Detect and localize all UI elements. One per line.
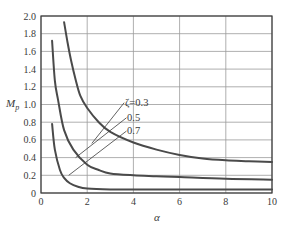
- curve-zeta-05: [52, 41, 272, 180]
- y-tick-label: 1.4: [24, 64, 37, 75]
- x-axis-ticks: 0246810: [39, 196, 278, 207]
- curves: [52, 22, 272, 189]
- x-tick-label: 10: [267, 196, 277, 207]
- curve-zeta-03: [64, 22, 272, 162]
- mp-vs-alpha-chart: 00.20.40.60.81.01.21.41.61.82.0 0246810 …: [0, 0, 284, 231]
- x-tick-label: 6: [177, 196, 182, 207]
- x-tick-label: 8: [223, 196, 228, 207]
- y-tick-label: 2.0: [24, 11, 37, 22]
- y-axis-ticks: 00.20.40.60.81.01.21.41.61.82.0: [24, 11, 37, 199]
- y-tick-label: 0: [31, 188, 36, 199]
- y-tick-label: 0.6: [24, 134, 37, 145]
- y-tick-label: 0.2: [24, 170, 37, 181]
- annotation-zeta-0-5: 0.5: [127, 112, 140, 123]
- annotation-zeta-0-3: ζ=0.3: [125, 97, 148, 109]
- y-tick-label: 1.2: [24, 81, 37, 92]
- x-tick-label: 0: [39, 196, 44, 207]
- grid-lines: [41, 16, 272, 193]
- x-tick-label: 2: [85, 196, 90, 207]
- y-tick-label: 0.4: [24, 152, 37, 163]
- y-tick-label: 1.8: [24, 28, 37, 39]
- x-tick-label: 4: [131, 196, 136, 207]
- y-tick-label: 1.6: [24, 46, 37, 57]
- y-tick-label: 1.0: [24, 99, 37, 110]
- x-axis-label: α: [154, 211, 160, 223]
- y-axis-label: Mp: [5, 97, 19, 112]
- y-tick-label: 0.8: [24, 117, 37, 128]
- annotation-leaders: [69, 103, 127, 176]
- annotation-zeta-0-7: 0.7: [127, 125, 140, 136]
